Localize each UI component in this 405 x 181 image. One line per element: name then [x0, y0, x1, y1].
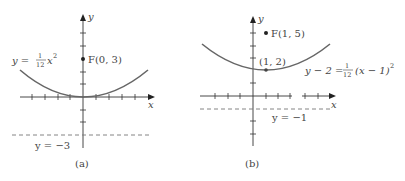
equation-label-b: y − 2 = 1 12 (x − 1) 2: [304, 62, 394, 79]
parabola-figure: F(0, 3) y = −3 y x y = 1 12 x 2 (a): [0, 0, 405, 181]
svg-text:(x − 1): (x − 1): [355, 65, 390, 76]
focus-point-a: [81, 57, 85, 61]
parabola-curve-a: [20, 70, 148, 97]
panel-b: (1, 2) F(1, 5) y = −1 y x y − 2 = 1 12 (…: [200, 13, 394, 169]
vertex-point-b: [264, 68, 268, 72]
svg-text:2: 2: [53, 52, 57, 60]
caption-b: (b): [245, 158, 259, 169]
x-axis-label-a: x: [148, 99, 154, 110]
y-axis-arrow-icon: [80, 14, 86, 21]
equation-label-a: y = 1 12 x 2: [11, 52, 57, 69]
y-axis-arrow-icon: [250, 16, 256, 23]
y-axis-label-b: y: [257, 13, 264, 24]
focus-point-b: [264, 31, 268, 35]
svg-text:2: 2: [390, 62, 394, 70]
caption-a: (a): [75, 158, 89, 169]
vertex-label-b: (1, 2): [259, 56, 286, 67]
panel-a: F(0, 3) y = −3 y x y = 1 12 x 2 (a): [11, 11, 155, 169]
svg-text:y − 2 =: y − 2 =: [304, 65, 343, 76]
svg-text:12: 12: [343, 71, 351, 79]
focus-label-a: F(0, 3): [88, 54, 122, 65]
x-axis-label-b: x: [331, 99, 337, 110]
svg-text:12: 12: [36, 61, 44, 69]
directrix-label-b: y = −1: [271, 112, 307, 123]
focus-label-b: F(1, 5): [271, 28, 305, 39]
svg-text:y =: y =: [11, 55, 29, 66]
svg-text:1: 1: [345, 62, 349, 70]
svg-text:1: 1: [38, 52, 42, 60]
directrix-label-a: y = −3: [34, 140, 70, 151]
y-axis-label-a: y: [87, 11, 94, 22]
